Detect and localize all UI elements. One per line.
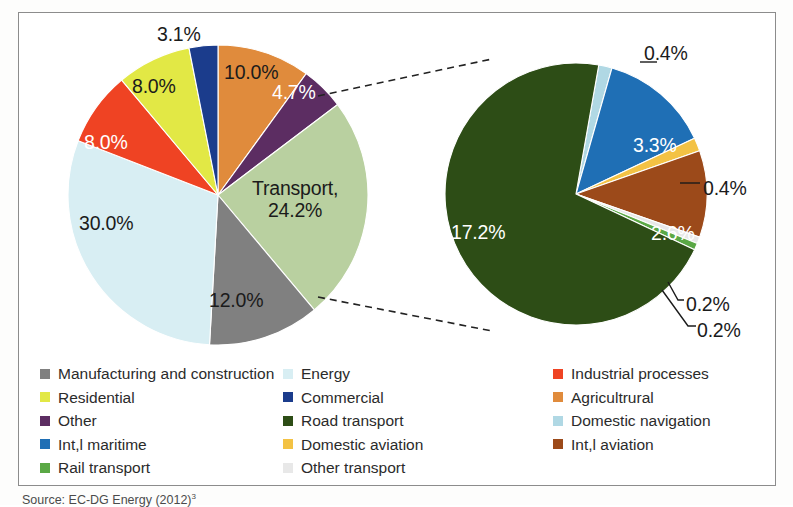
legend-row: Rail transportOther transport bbox=[40, 456, 760, 480]
legend-swatch-icon bbox=[40, 369, 50, 379]
legend-label: Domestic aviation bbox=[301, 437, 423, 453]
legend-swatch-icon bbox=[553, 392, 563, 402]
legend-item-other[interactable]: Other bbox=[40, 409, 97, 433]
legend-swatch-icon bbox=[40, 392, 50, 402]
legend-swatch-icon bbox=[553, 416, 563, 426]
legend-swatch-icon bbox=[283, 463, 293, 473]
pie-value-label-left-1: 10.0% bbox=[224, 62, 278, 84]
legend-item-rail-transport[interactable]: Rail transport bbox=[40, 456, 150, 480]
pie-value-label-left-6: 12.0% bbox=[209, 290, 263, 312]
legend-item-int-l-aviation[interactable]: Int,l aviation bbox=[553, 433, 654, 457]
source-note: Source: EC-DG Energy (2012)3 bbox=[22, 492, 196, 507]
legend-label: Domestic navigation bbox=[571, 413, 711, 429]
source-note-superscript: 3 bbox=[192, 492, 196, 501]
legend-label: Industrial processes bbox=[571, 366, 709, 382]
legend-swatch-icon bbox=[553, 369, 563, 379]
pie-value-label-right-1: 3.3% bbox=[633, 135, 677, 157]
legend-label: Energy bbox=[301, 366, 350, 382]
pie-value-label-right-4: 17.2% bbox=[451, 222, 505, 244]
pie-value-label-transport: Transport,24.2% bbox=[252, 178, 338, 222]
legend-swatch-icon bbox=[283, 439, 293, 449]
source-note-text: Source: EC-DG Energy (2012) bbox=[22, 493, 192, 507]
pie-value-label-right-3: 2.6% bbox=[651, 223, 695, 245]
legend-item-industrial-processes[interactable]: Industrial processes bbox=[553, 362, 709, 386]
legend-row: OtherRoad transportDomestic navigation bbox=[40, 409, 760, 433]
legend-label: Road transport bbox=[301, 413, 404, 429]
legend-swatch-icon bbox=[283, 369, 293, 379]
legend-label: Other bbox=[58, 413, 97, 429]
legend-label: Int,l maritime bbox=[58, 437, 147, 453]
legend-swatch-icon bbox=[40, 416, 50, 426]
legend-item-residential[interactable]: Residential bbox=[40, 386, 135, 410]
legend-item-road-transport[interactable]: Road transport bbox=[283, 409, 404, 433]
transport-label-line2: 24.2% bbox=[252, 200, 338, 222]
legend-swatch-icon bbox=[553, 439, 563, 449]
pie-value-label-left-2: 4.7% bbox=[272, 82, 316, 104]
legend-label: Commercial bbox=[301, 390, 384, 406]
legend-item-other-transport[interactable]: Other transport bbox=[283, 456, 405, 480]
legend-item-commercial[interactable]: Commercial bbox=[283, 386, 384, 410]
legend-item-domestic-navigation[interactable]: Domestic navigation bbox=[553, 409, 711, 433]
legend-item-energy[interactable]: Energy bbox=[283, 362, 350, 386]
legend-row: Manufacturing and constructionEnergyIndu… bbox=[40, 362, 760, 386]
pie-value-label-right-2: 0.4% bbox=[703, 178, 747, 200]
legend-item-int-l-maritime[interactable]: Int,l maritime bbox=[40, 433, 147, 457]
legend-label: Agricultrural bbox=[571, 390, 654, 406]
legend-swatch-icon bbox=[283, 392, 293, 402]
legend-swatch-icon bbox=[40, 439, 50, 449]
legend-swatch-icon bbox=[40, 463, 50, 473]
legend-item-agricultrural[interactable]: Agricultrural bbox=[553, 386, 654, 410]
legend-label: Int,l aviation bbox=[571, 437, 654, 453]
legend-label: Rail transport bbox=[58, 460, 150, 476]
legend: Manufacturing and constructionEnergyIndu… bbox=[40, 362, 760, 480]
pie-value-label-left-4: 8.0% bbox=[84, 132, 128, 154]
legend-item-domestic-aviation[interactable]: Domestic aviation bbox=[283, 433, 423, 457]
legend-label: Residential bbox=[58, 390, 135, 406]
pie-value-label-right-5: 0.2% bbox=[686, 294, 730, 316]
pie-value-label-left-0: 3.1% bbox=[157, 24, 201, 46]
legend-label: Other transport bbox=[301, 460, 405, 476]
legend-row: Int,l maritimeDomestic aviationInt,l avi… bbox=[40, 433, 760, 457]
transport-label-line1: Transport, bbox=[252, 178, 338, 200]
legend-row: ResidentialCommercialAgricultrural bbox=[40, 386, 760, 410]
legend-swatch-icon bbox=[283, 416, 293, 426]
pie-value-label-right-0: 0.4% bbox=[644, 43, 688, 65]
pie-value-label-right-6: 0.2% bbox=[697, 320, 741, 342]
pie-value-label-left-3: 8.0% bbox=[132, 76, 176, 98]
legend-item-manufacturing-and-construction[interactable]: Manufacturing and construction bbox=[40, 362, 274, 386]
legend-label: Manufacturing and construction bbox=[58, 366, 274, 382]
pie-value-label-left-5: 30.0% bbox=[79, 213, 133, 235]
